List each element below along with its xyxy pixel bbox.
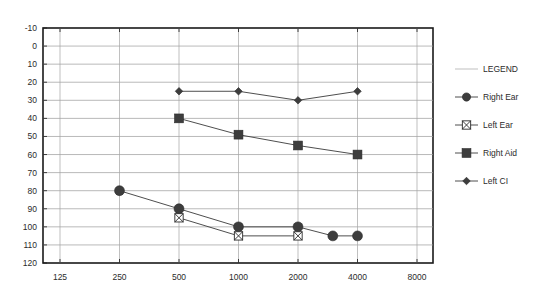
legend-item-label: Right Ear (483, 92, 519, 102)
data-point-filled-circle (174, 204, 184, 214)
data-point-square-with-x (294, 232, 302, 240)
legend-item-left-ci[interactable]: Left CI (455, 176, 508, 186)
y-axis-tick-label: 90 (28, 204, 38, 214)
y-axis-tick-label: 70 (28, 168, 38, 178)
y-axis-tick-label: 80 (28, 186, 38, 196)
y-axis-tick-label: 30 (28, 95, 38, 105)
legend-marker-filled-square (462, 149, 471, 158)
data-point-filled-circle (234, 222, 244, 232)
legend-title: LEGEND (483, 64, 518, 74)
y-axis-tick-label: 120 (23, 258, 37, 268)
y-axis-tick-label: 20 (28, 77, 38, 87)
data-point-square-with-x (234, 232, 242, 240)
legend-marker-filled-diamond (463, 177, 471, 185)
y-axis-tick-label: 40 (28, 113, 38, 123)
legend-marker-filled-circle (462, 93, 470, 101)
chart-legend: LEGENDRight EarLeft EarRight AidLeft CI (455, 64, 519, 186)
audiogram-chart: -100102030405060708090100110120 12525050… (0, 0, 534, 301)
audiogram-svg: -100102030405060708090100110120 12525050… (0, 0, 534, 301)
x-axis-tick-label: 125 (53, 272, 67, 282)
legend-item-label: Left CI (483, 176, 508, 186)
x-axis-tick-labels: 1252505001000200040008000 (53, 272, 427, 282)
legend-item-left-ear[interactable]: Left Ear (455, 120, 513, 130)
legend-item-right-aid[interactable]: Right Aid (455, 148, 517, 158)
data-point-filled-circle (115, 186, 125, 196)
x-axis-tick-label: 2000 (289, 272, 308, 282)
data-point-filled-square (294, 141, 303, 150)
data-point-filled-square (175, 114, 184, 123)
data-point-filled-circle (293, 222, 303, 232)
y-axis-tick-label: 60 (28, 150, 38, 160)
data-point-square-with-x (175, 214, 183, 222)
x-axis-tick-label: 250 (112, 272, 126, 282)
y-axis-tick-label: 0 (32, 41, 37, 51)
y-axis-tick-label: 100 (23, 222, 37, 232)
y-axis-tick-label: 50 (28, 131, 38, 141)
x-axis-tick-label: 4000 (348, 272, 367, 282)
y-axis-tick-label: 110 (23, 240, 37, 250)
legend-item-right-ear[interactable]: Right Ear (455, 92, 519, 102)
legend-item-label: Left Ear (483, 120, 513, 130)
y-axis-tick-label: 10 (28, 59, 38, 69)
data-point-filled-circle (353, 231, 363, 241)
x-axis-tick-label: 8000 (408, 272, 427, 282)
data-point-filled-square (353, 150, 362, 159)
x-axis-tick-label: 500 (172, 272, 186, 282)
x-axis-tick-label: 1000 (229, 272, 248, 282)
legend-item-label: Right Aid (483, 148, 517, 158)
y-axis-tick-label: -10 (25, 23, 38, 33)
legend-marker-square-with-x (462, 121, 470, 129)
data-point-filled-square (234, 130, 243, 139)
data-point-filled-circle (328, 231, 338, 241)
